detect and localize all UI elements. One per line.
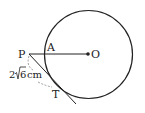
length-radicand: 6 <box>20 69 26 80</box>
center-point-O <box>86 52 90 56</box>
length-coefficient: 2 <box>9 69 15 80</box>
label-T: T <box>52 88 60 101</box>
label-P: P <box>18 48 26 61</box>
length-label: 2 6 cm <box>9 67 43 80</box>
label-O: O <box>91 48 100 61</box>
label-A: A <box>46 41 56 54</box>
geometry-diagram: P A O T 2 6 cm <box>0 0 145 113</box>
length-unit: cm <box>27 69 43 80</box>
